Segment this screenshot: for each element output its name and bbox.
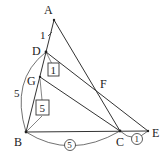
segment-ac (54, 20, 120, 131)
segment-be (26, 131, 148, 132)
point-g (39, 76, 41, 78)
geometry-diagram: A D G B C E F 1 5 1 5 5 1 (0, 0, 168, 160)
label-b: B (14, 135, 22, 149)
arc-bd (21, 52, 46, 132)
label-a: A (44, 3, 53, 17)
leader-g-box (40, 79, 42, 100)
circle-bc-value: 5 (67, 140, 72, 150)
length-bd-arc: 5 (14, 87, 20, 99)
point-a (53, 19, 55, 21)
label-d: D (32, 44, 41, 58)
segment-gc (40, 77, 120, 131)
point-e (147, 130, 149, 132)
point-d (45, 51, 48, 54)
label-c: C (116, 135, 124, 149)
label-f: F (100, 77, 107, 91)
circle-ce-value: 1 (135, 134, 140, 144)
point-c (119, 130, 122, 133)
length-ad: 1 (40, 29, 46, 41)
box-dg-value: 1 (51, 64, 57, 76)
label-e: E (152, 126, 159, 140)
point-b (25, 131, 28, 134)
box-gb-value: 5 (40, 102, 46, 114)
label-g: G (27, 74, 36, 88)
diagram-canvas: A D G B C E F 1 5 1 5 5 1 (0, 0, 168, 160)
